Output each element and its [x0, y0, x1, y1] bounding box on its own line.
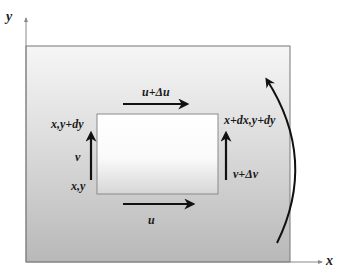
fluid-element [97, 114, 218, 194]
x-axis-label: x [326, 254, 333, 268]
corner-label-top-left: x,y+dy [51, 118, 84, 130]
y-axis-label: y [6, 10, 12, 24]
velocity-label-top: u+Δu [142, 86, 170, 98]
diagram-svg [0, 0, 348, 276]
velocity-label-left: v [75, 151, 80, 163]
corner-label-bottom-left: x,y [71, 180, 85, 192]
velocity-label-bottom: u [148, 214, 155, 226]
corner-label-top-right: x+dx,y+dy [224, 114, 275, 126]
diagram-canvas: y x x,y+dy x,y x+dx,y+dy u+Δu u v v+Δv [0, 0, 348, 276]
velocity-label-right: v+Δv [233, 168, 258, 180]
